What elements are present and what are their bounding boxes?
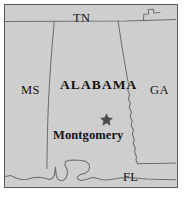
capital-city-label: Montgomery (53, 129, 123, 142)
map-frame: TN MS GA FL ALABAMA Montgomery (4, 4, 178, 188)
neighbor-label-ms: MS (21, 84, 40, 97)
neighbor-label-fl: FL (123, 171, 138, 184)
star-marker-icon (100, 113, 113, 126)
neighbor-label-tn: TN (73, 12, 90, 25)
alabama-reference-map: TN MS GA FL ALABAMA Montgomery (0, 0, 185, 202)
neighbor-label-ga: GA (150, 84, 169, 97)
state-name-label: ALABAMA (60, 78, 137, 92)
